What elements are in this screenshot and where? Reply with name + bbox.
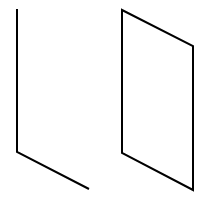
diagram-canvas	[0, 0, 208, 202]
diagram-svg	[0, 0, 208, 202]
open-corner-shape	[17, 9, 89, 189]
parallelogram-shape	[122, 10, 193, 190]
